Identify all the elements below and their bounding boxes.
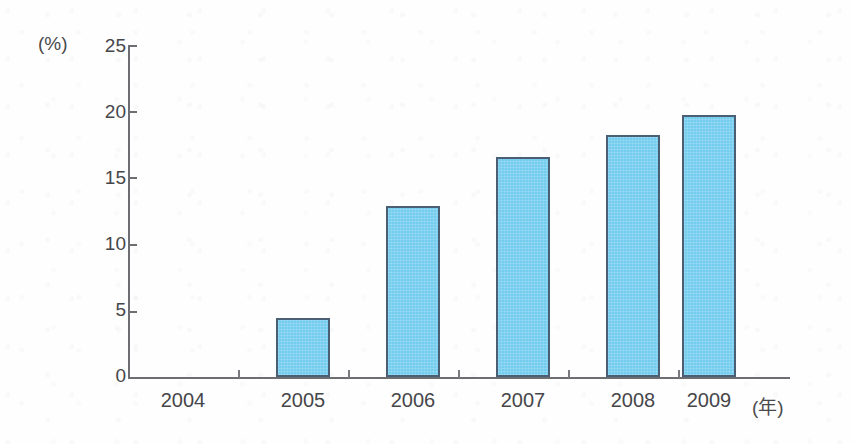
y-tick-label-15: 15: [84, 168, 126, 187]
x-tick-label-2006: 2006: [358, 390, 468, 410]
y-axis-line: [128, 45, 130, 378]
y-tick-mark-25: [128, 45, 137, 47]
bar-2005: [276, 318, 330, 377]
y-tick-label-0: 0: [84, 366, 126, 385]
y-tick-label-5: 5: [84, 300, 126, 319]
x-tick-mark-5: [678, 370, 680, 378]
y-tick-mark-15: [128, 177, 137, 179]
bar-2007: [496, 157, 550, 377]
bar-2009: [682, 115, 736, 377]
y-tick-label-20: 20: [84, 102, 126, 121]
x-tick-mark-3: [458, 370, 460, 378]
y-axis-unit-label: (%): [38, 33, 68, 55]
x-tick-label-2004: 2004: [128, 390, 238, 410]
y-tick-mark-10: [128, 244, 137, 246]
x-tick-mark-1: [238, 370, 240, 378]
x-tick-mark-4: [568, 370, 570, 378]
y-tick-mark-5: [128, 311, 137, 313]
x-tick-label-2007: 2007: [468, 390, 578, 410]
chart-page: (%) (年) 25 20 15 10 5 0 2004 2005: [0, 0, 853, 444]
y-tick-mark-20: [128, 111, 137, 113]
x-tick-label-2009: 2009: [654, 390, 764, 410]
bar-chart: (%) (年) 25 20 15 10 5 0 2004 2005: [0, 0, 853, 444]
y-tick-label-10: 10: [84, 234, 126, 253]
bar-2008: [606, 135, 660, 377]
y-tick-label-25: 25: [84, 36, 126, 55]
x-tick-label-2005: 2005: [248, 390, 358, 410]
bar-2006: [386, 206, 440, 377]
x-tick-mark-2: [348, 370, 350, 378]
